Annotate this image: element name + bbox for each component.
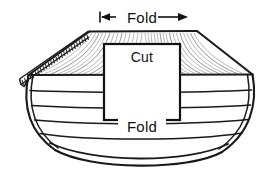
arrow-right-icon (178, 13, 188, 21)
deck-top-edge (90, 31, 198, 32)
cut-region: Cut (104, 44, 180, 120)
hull-left-inner (31, 75, 58, 148)
railing-upper-edge (20, 31, 89, 79)
hull-right-inner (219, 75, 249, 150)
hull-keel-line (50, 143, 228, 159)
railing-end-cap (20, 79, 22, 85)
boat-illustration: Cut Fold Fold (0, 0, 279, 180)
fold-top-label: Fold (127, 9, 157, 26)
boat-craft-diagram: Cut Fold Fold (0, 0, 279, 180)
hull-left-outer (26, 75, 55, 150)
fold-bottom-label: Fold (127, 118, 157, 135)
railing-lower-edge (21, 37, 89, 85)
cut-label: Cut (131, 49, 153, 65)
arrow-left-icon (101, 13, 110, 21)
